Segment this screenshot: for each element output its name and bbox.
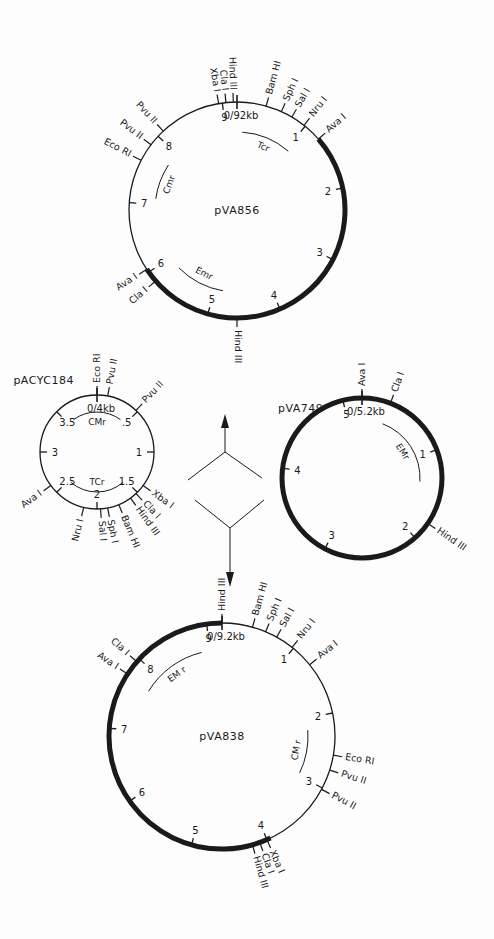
kb-tick-label: 9: [221, 112, 227, 123]
plasmid-pVA749: 0/5.2kb12345Ava ICla IHind IIIEMrpVA749: [278, 363, 469, 558]
restriction-site-label: Bam HI: [119, 513, 142, 549]
restriction-site-tick: [277, 629, 281, 637]
restriction-site-label: Cla I: [109, 635, 132, 657]
restriction-site-tick: [318, 133, 325, 139]
restriction-site-tick: [266, 97, 268, 106]
restriction-site-label: Pvu II: [139, 378, 165, 404]
resistance-gene-label: EM r: [166, 664, 188, 684]
kb-tick: [222, 103, 223, 110]
kb-tick-label: .5: [122, 417, 132, 428]
kb-tick-label: 4: [258, 820, 264, 831]
kb-tick-label: 2.5: [59, 476, 75, 487]
restriction-site-label: Pvu II: [104, 357, 120, 385]
kb-tick-label: 1: [293, 132, 299, 143]
resistance-gene-label: Emr: [194, 265, 215, 282]
kb-tick-label: 6: [139, 787, 145, 798]
restriction-site-label: Pvu II: [134, 99, 160, 126]
kb-tick: [132, 487, 137, 492]
plasmid-name: pACYC184: [13, 374, 74, 387]
restriction-site-label: Ava I: [96, 649, 121, 671]
resistance-gene-label: CM r: [289, 739, 303, 761]
restriction-site-tick: [108, 387, 110, 396]
restriction-site-label: Hind III: [216, 578, 227, 611]
restriction-site-label: Nru I: [294, 616, 317, 641]
kb-tick: [57, 487, 62, 492]
restriction-site-tick: [252, 619, 254, 628]
kb-tick-label: 3: [329, 530, 335, 541]
plasmid-pVA838: 0/9.2kb123456789Hind IIIBam HISph ISal I…: [96, 578, 376, 890]
kb-tick-label: 3: [52, 447, 58, 458]
kb-tick-label: 2: [315, 711, 321, 722]
restriction-site-tick: [44, 486, 51, 491]
kb-tick-label: 8: [147, 664, 153, 675]
restriction-site-label: Hind III: [233, 330, 244, 363]
kb-tick: [289, 648, 293, 653]
kb-tick-label: 5: [192, 825, 198, 836]
restriction-site-tick: [217, 95, 219, 104]
size-label: 0/92kb: [224, 110, 259, 121]
thick-dna-segment: [147, 139, 345, 318]
kb-tick-label: 1.5: [119, 476, 135, 487]
restriction-site-label: Ava I: [323, 111, 348, 135]
restriction-site-label: Sal I: [97, 520, 109, 541]
restriction-site-tick: [143, 486, 150, 491]
restriction-site-tick: [310, 659, 317, 665]
restriction-site-tick: [281, 103, 285, 111]
kb-tick: [316, 785, 322, 788]
thick-dna-segment: [109, 623, 271, 849]
restriction-site-label: Bam HI: [263, 59, 283, 95]
restriction-site-tick: [130, 656, 137, 662]
kb-tick-label: 3: [306, 776, 312, 787]
plasmid-pVA856: 0/92kb123456789Hind IIICla IXba IBam HIS…: [102, 57, 348, 364]
kb-tick: [326, 713, 333, 714]
restriction-site-tick: [322, 789, 330, 793]
arrow-up-head: [221, 414, 229, 428]
restriction-site-label: Eco RI: [102, 135, 133, 158]
kb-tick-label: 2: [325, 186, 331, 197]
size-label: 0/9.2kb: [207, 631, 245, 642]
restriction-site-label: Eco RI: [91, 354, 102, 383]
restriction-site-tick: [108, 508, 110, 517]
restriction-site-tick: [133, 156, 141, 160]
figure-canvas: 0/92kb123456789Hind IIICla IXba IBam HIS…: [0, 0, 494, 939]
restriction-site-tick: [149, 281, 156, 287]
kb-tick-label: 7: [121, 724, 127, 735]
restriction-site-tick: [136, 404, 142, 411]
restriction-site-tick: [330, 770, 339, 773]
arrow-down-head: [226, 572, 234, 587]
restriction-site-tick: [333, 755, 342, 757]
restriction-site-tick: [157, 124, 163, 131]
restriction-site-label: Hind III: [435, 525, 469, 553]
restriction-site-tick: [119, 505, 122, 513]
restriction-site-label: Cla I: [389, 370, 407, 393]
restriction-site-tick: [82, 507, 84, 516]
kb-tick-label: 3: [316, 247, 322, 258]
resistance-gene-label: CMr: [88, 417, 106, 427]
restriction-site-label: Pvu II: [340, 768, 368, 786]
kb-tick-label: 7: [141, 198, 147, 209]
kb-tick: [283, 468, 290, 469]
kb-tick-label: 6: [158, 258, 164, 269]
resistance-gene-label: Tcr: [255, 139, 272, 154]
kb-tick-label: 5: [343, 409, 349, 420]
construction-scheme: [188, 414, 264, 587]
restriction-site-label: Pvu II: [118, 117, 145, 141]
kb-tick: [158, 136, 163, 141]
plasmid-pACYC184: 0/4kb.511.522.533.5Eco RIPvu IIPvu IIXba…: [13, 354, 176, 550]
size-label: 0/5.2kb: [347, 406, 385, 417]
restriction-site-tick: [225, 94, 226, 103]
restriction-site-label: Cla I: [127, 284, 150, 306]
kb-tick-label: 1: [281, 654, 287, 665]
restriction-site-tick: [304, 118, 310, 125]
kb-tick-label: 3.5: [59, 417, 75, 428]
restriction-site-tick: [136, 494, 142, 501]
restriction-site-tick: [101, 509, 102, 518]
restriction-site-label: Nru I: [69, 518, 85, 543]
restriction-site-tick: [144, 139, 151, 144]
kb-tick: [132, 412, 137, 417]
restriction-site-tick: [292, 640, 298, 647]
merge-line-upper: [188, 452, 262, 480]
kb-tick-label: 2: [94, 489, 100, 500]
plasmid-diagram: 0/92kb123456789Hind IIICla IXba IBam HIS…: [0, 0, 494, 939]
plasmid-name: pVA856: [214, 204, 259, 217]
